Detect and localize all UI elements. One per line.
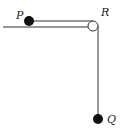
label-r: R xyxy=(100,6,109,19)
ball-q xyxy=(93,114,103,124)
label-q: Q xyxy=(107,113,116,126)
pulley-r xyxy=(88,21,98,31)
ball-p xyxy=(24,16,34,26)
pulley-diagram: P R Q xyxy=(0,0,125,132)
label-p: P xyxy=(15,9,24,22)
